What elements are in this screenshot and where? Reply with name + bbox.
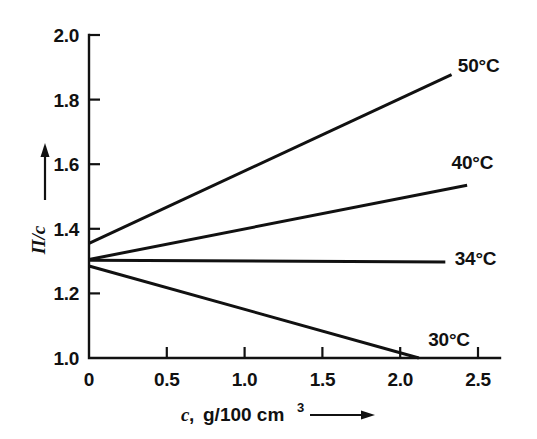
y-axis-title-text: Π/c [28, 225, 49, 255]
series-line-34°C [89, 260, 445, 262]
series-label-30°C: 30°C [428, 329, 470, 350]
axis-ticks [89, 35, 478, 358]
x-tick-label-0: 0 [84, 369, 94, 390]
x-axis-title-comma: , [189, 404, 194, 425]
chart-canvas: 00.51.01.52.02.5 1.01.21.41.61.82.0 50°C… [0, 0, 537, 439]
data-series-lines [89, 75, 467, 358]
x-axis-tick-labels: 00.51.01.52.02.5 [84, 369, 492, 390]
y-axis-tick-labels: 1.01.21.41.61.82.0 [53, 25, 79, 369]
x-axis-arrow-head [361, 411, 375, 420]
x-tick-label-2.5: 2.5 [465, 369, 491, 390]
y-axis-title: Π/c [28, 143, 50, 255]
series-line-50°C [89, 75, 452, 244]
x-tick-label-2.0: 2.0 [387, 369, 413, 390]
y-tick-label-1.6: 1.6 [53, 154, 79, 175]
y-tick-label-2.0: 2.0 [53, 25, 79, 46]
series-label-34°C: 34°C [455, 248, 497, 269]
chart-figure: 00.51.01.52.02.5 1.01.21.41.61.82.0 50°C… [0, 0, 537, 439]
axis-frame [89, 35, 500, 358]
x-tick-label-0.5: 0.5 [154, 369, 180, 390]
series-label-40°C: 40°C [452, 152, 494, 173]
axes [89, 35, 500, 358]
y-tick-label-1.8: 1.8 [53, 90, 79, 111]
x-tick-label-1.5: 1.5 [310, 369, 336, 390]
series-line-40°C [89, 185, 467, 259]
y-axis-arrow-head [41, 143, 50, 157]
y-tick-label-1.2: 1.2 [53, 283, 79, 304]
series-line-30°C [89, 266, 419, 358]
x-axis-title-units-exponent: 3 [297, 400, 304, 415]
series-labels: 50°C40°C34°C30°C [428, 55, 500, 351]
series-label-50°C: 50°C [458, 55, 500, 76]
y-tick-label-1.0: 1.0 [53, 348, 79, 369]
y-tick-label-1.4: 1.4 [53, 219, 79, 240]
x-tick-label-1.0: 1.0 [232, 369, 258, 390]
x-axis-title: c , g/100 cm 3 [181, 400, 375, 425]
x-axis-title-units: g/100 cm [203, 404, 284, 425]
